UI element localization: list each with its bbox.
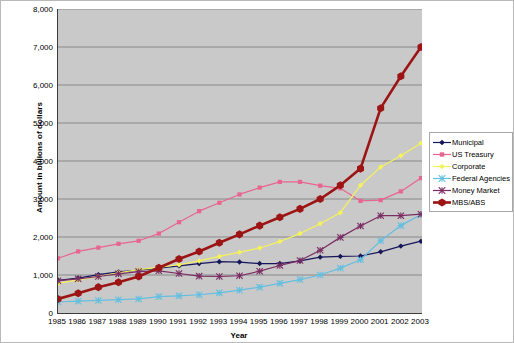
data-point	[95, 273, 101, 279]
x-axis-tick-label: 1990	[149, 317, 167, 326]
x-axis-tick-label: 2003	[411, 317, 429, 326]
data-point	[175, 255, 182, 263]
plot-svg	[58, 9, 422, 313]
data-point	[75, 298, 81, 304]
series-line	[58, 214, 421, 281]
data-point	[398, 243, 403, 248]
data-point	[236, 287, 242, 293]
legend-label: Federal Agencies	[452, 173, 510, 184]
legend-label: Corporate	[452, 161, 485, 172]
data-point	[157, 231, 161, 235]
data-point	[378, 238, 384, 244]
x-axis-tick-label: 1989	[129, 317, 147, 326]
y-axis-tick-labels: 01,0002,0003,0004,0005,0006,0007,0008,00…	[11, 1, 53, 343]
x-axis-tick-label: 1986	[68, 317, 86, 326]
data-point	[439, 139, 445, 145]
data-point	[278, 180, 282, 184]
data-point	[58, 256, 60, 260]
legend-marker-icon	[432, 197, 452, 208]
data-point	[196, 247, 203, 255]
data-point	[176, 270, 182, 276]
legend-item-mbs-abs[interactable]: MBS/ABS	[432, 196, 510, 208]
data-point	[418, 238, 422, 243]
data-point	[297, 276, 303, 282]
series-line	[58, 178, 421, 258]
data-point	[216, 239, 223, 247]
data-point	[440, 152, 444, 156]
data-point	[75, 289, 82, 297]
data-point	[296, 205, 303, 213]
x-axis-tick-labels: 1985198619871988198919901991199219931994…	[57, 317, 421, 331]
y-axis-tick-label: 1,000	[11, 271, 53, 280]
legend-marker-icon	[432, 161, 452, 172]
data-point	[217, 259, 222, 264]
data-point	[236, 273, 242, 279]
chart-legend: MunicipalUS TreasuryCorporateFederal Age…	[429, 132, 513, 212]
data-point	[398, 213, 404, 219]
data-point	[156, 294, 162, 300]
data-point	[317, 254, 322, 259]
data-point	[338, 254, 343, 259]
series-us-treasury	[58, 176, 422, 260]
data-point	[439, 175, 446, 182]
data-point	[358, 199, 362, 203]
x-axis-tick-label: 2002	[391, 317, 409, 326]
data-point	[317, 247, 323, 253]
y-axis-tick-label: 4,000	[11, 157, 53, 166]
data-point	[75, 276, 81, 282]
legend-item-municipal[interactable]: Municipal	[432, 136, 510, 148]
y-axis-tick-label: 6,000	[11, 81, 53, 90]
data-point	[257, 245, 262, 250]
legend-label: MBS/ABS	[452, 197, 485, 208]
x-axis-tick-label: 1985	[48, 317, 66, 326]
x-axis-tick-label: 2000	[351, 317, 369, 326]
data-point	[196, 273, 202, 279]
plot-area	[57, 9, 422, 314]
data-point	[256, 222, 263, 230]
data-point	[197, 209, 201, 213]
y-axis-tick-label: 3,000	[11, 195, 53, 204]
legend-item-federal-agencies[interactable]: Federal Agencies	[432, 172, 510, 184]
data-point	[298, 180, 302, 184]
data-point	[177, 220, 181, 224]
data-point	[137, 239, 141, 243]
data-point	[277, 239, 282, 244]
x-axis-tick-label: 1991	[169, 317, 187, 326]
data-point	[378, 213, 384, 219]
data-point	[176, 293, 182, 299]
data-point	[116, 242, 120, 246]
legend-label: Municipal	[452, 137, 484, 148]
x-axis-tick-label: 2001	[371, 317, 389, 326]
legend-marker-icon	[432, 137, 452, 148]
data-point	[337, 234, 343, 240]
data-point	[357, 257, 363, 263]
data-point	[196, 292, 202, 298]
data-point	[257, 268, 263, 274]
data-point	[379, 198, 383, 202]
data-point	[438, 198, 445, 206]
legend-marker-icon	[432, 149, 452, 160]
x-axis-tick-label: 1992	[189, 317, 207, 326]
data-point	[419, 176, 422, 180]
x-axis-tick-label: 1993	[209, 317, 227, 326]
legend-item-us-treasury[interactable]: US Treasury	[432, 148, 510, 160]
data-point	[277, 280, 283, 286]
x-axis-tick-label: 1999	[330, 317, 348, 326]
data-point	[237, 192, 241, 196]
x-axis-tick-label: 1998	[310, 317, 328, 326]
data-point	[317, 272, 323, 278]
data-point	[398, 222, 404, 228]
x-axis-tick-label: 1997	[290, 317, 308, 326]
data-point	[357, 223, 363, 229]
legend-item-corporate[interactable]: Corporate	[432, 160, 510, 172]
data-point	[237, 259, 242, 264]
y-axis-tick-label: 7,000	[11, 43, 53, 52]
y-axis-tick-label: 0	[11, 309, 53, 318]
data-point	[136, 296, 142, 302]
data-point	[95, 297, 101, 303]
legend-marker-icon	[432, 173, 452, 184]
legend-item-money-market[interactable]: Money Market	[432, 184, 510, 196]
data-point	[217, 201, 221, 205]
data-point	[115, 297, 121, 303]
data-point	[257, 261, 262, 266]
